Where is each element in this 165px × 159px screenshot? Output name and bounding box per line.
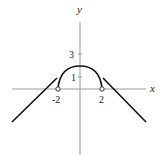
y-tick-label-1: 1 (71, 72, 76, 83)
open-point-2 (100, 87, 104, 91)
piecewise-function-graph: x y 3 1 -2 2 (0, 0, 165, 159)
x-tick-label-neg2: -2 (52, 94, 60, 105)
plot-canvas: x y 3 1 -2 2 (0, 0, 165, 159)
x-tick-label-2: 2 (99, 94, 104, 105)
open-point-neg2 (56, 87, 60, 91)
right-line-segment (103, 78, 146, 122)
y-axis-label: y (76, 3, 82, 15)
y-tick-label-3: 3 (69, 49, 74, 60)
x-axis-label: x (149, 82, 155, 94)
left-line-segment (12, 78, 57, 122)
